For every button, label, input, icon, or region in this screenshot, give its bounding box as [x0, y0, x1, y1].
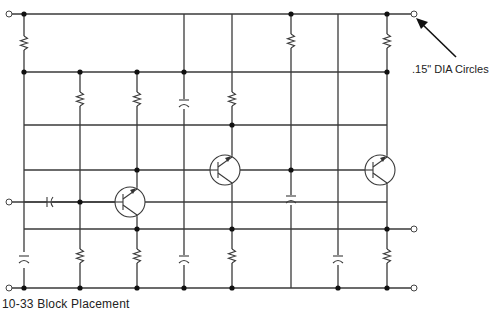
terminal-circle — [411, 226, 417, 232]
terminal-circle — [411, 285, 417, 291]
resistor-icon — [77, 92, 84, 106]
resistor-icon — [21, 36, 28, 50]
capacitor-icon — [179, 261, 189, 264]
transistor-emitter — [218, 173, 232, 183]
capacitor-icon — [333, 261, 343, 264]
junction-nodes — [21, 11, 389, 290]
terminal-circle — [6, 11, 12, 17]
transistor-collector — [218, 157, 232, 167]
junction-node — [229, 226, 234, 231]
capacitor-icon — [19, 261, 29, 264]
transistor-collector — [123, 189, 137, 199]
junction-node — [77, 285, 82, 290]
transistor-icon — [210, 155, 240, 185]
junction-node — [229, 122, 234, 127]
capacitor-icon — [179, 105, 189, 108]
resistor-icon — [229, 249, 236, 263]
junction-node — [229, 285, 234, 290]
terminal-circle — [6, 199, 12, 205]
resistor-icon — [229, 92, 236, 106]
junction-node — [181, 69, 186, 74]
junction-node — [134, 226, 139, 231]
resistor-icon — [288, 34, 295, 48]
junction-node — [134, 69, 139, 74]
terminal-circle — [411, 11, 417, 17]
junction-node — [134, 167, 139, 172]
junction-node — [288, 11, 293, 16]
transistor-collector — [373, 157, 387, 167]
callout-arrow-icon — [416, 18, 456, 57]
junction-node — [181, 285, 186, 290]
junction-node — [134, 285, 139, 290]
terminal-circles — [6, 11, 417, 291]
arrow-shaft — [420, 22, 456, 57]
junction-node — [384, 11, 389, 16]
transistor-emitter — [373, 173, 387, 183]
junction-node — [384, 69, 389, 74]
resistor-icon — [384, 34, 391, 48]
resistor-icon — [77, 249, 84, 263]
junction-node — [21, 69, 26, 74]
junction-node — [288, 167, 293, 172]
junction-node — [384, 226, 389, 231]
junction-node — [335, 285, 340, 290]
resistor-icon — [134, 92, 141, 106]
terminal-circle — [6, 285, 12, 291]
transistor-icon — [365, 155, 395, 185]
junction-node — [21, 11, 26, 16]
resistor-icon — [134, 249, 141, 263]
dia-circles-callout: .15" DIA Circles — [412, 63, 489, 75]
transistor-emitter — [123, 205, 137, 215]
transistor-icon — [115, 187, 145, 217]
junction-node — [77, 69, 82, 74]
junction-node — [384, 285, 389, 290]
figure-caption: 10-33 Block Placement — [2, 297, 130, 311]
wires — [9, 14, 414, 288]
resistor-icon — [384, 249, 391, 263]
junction-node — [21, 285, 26, 290]
junction-node — [77, 199, 82, 204]
